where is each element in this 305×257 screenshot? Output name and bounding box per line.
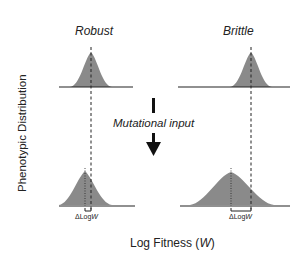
brittle-delta-label: ΔLogW [229, 213, 252, 220]
robust-title: Robust [75, 24, 113, 38]
brittle-mutated-distribution [180, 168, 290, 206]
brittle-title: Brittle [223, 24, 254, 38]
mutational-input-label: Mutational input [113, 117, 194, 129]
brittle-delta-bracket [231, 208, 251, 211]
y-axis-label: Phenotypic Distribution [16, 74, 28, 192]
robust-delta-bracket [85, 208, 91, 211]
brittle-initial-distribution [178, 52, 290, 87]
robust-mutated-distribution [59, 168, 135, 206]
robust-initial-distribution [59, 52, 133, 87]
robust-delta-label: ΔLogW [75, 213, 98, 220]
x-axis-label: Log Fitness (W) [130, 236, 215, 250]
